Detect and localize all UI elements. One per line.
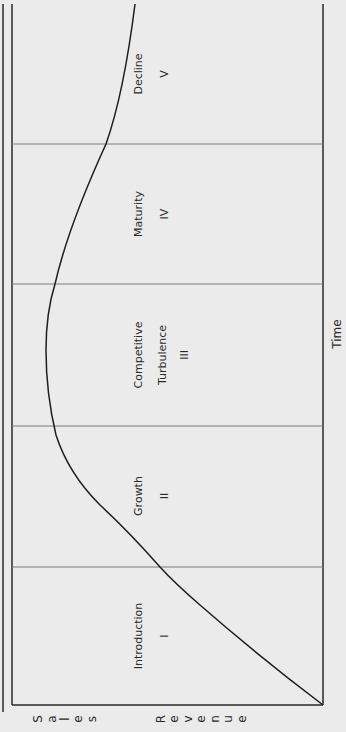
svg-text:Turbulence: Turbulence: [156, 325, 169, 386]
svg-text:s: s: [85, 716, 99, 722]
svg-text:e: e: [194, 715, 208, 722]
stage-label-maturity: Maturity IV: [132, 191, 171, 237]
y-axis-label: S a l e s R e v e n u e: [31, 715, 249, 723]
stage-label-introduction: Introduction I: [132, 603, 171, 670]
svg-text:Competitive: Competitive: [132, 321, 145, 388]
svg-text:e: e: [167, 715, 181, 722]
x-axis-label: Time: [330, 319, 344, 349]
svg-text:Time: Time: [330, 319, 344, 349]
svg-text:I: I: [158, 634, 171, 637]
svg-text:l: l: [58, 717, 72, 720]
svg-text:Maturity: Maturity: [132, 191, 145, 237]
svg-text:III: III: [178, 350, 191, 360]
svg-text:e: e: [235, 715, 249, 722]
svg-text:V: V: [158, 70, 171, 78]
stage-label-growth: Growth II: [132, 476, 171, 516]
stage-label-competitive-turbulence: Competitive Turbulence III: [132, 321, 191, 388]
svg-text:Introduction: Introduction: [132, 603, 145, 670]
svg-text:R: R: [154, 715, 168, 723]
svg-text:Decline: Decline: [132, 53, 145, 94]
svg-text:v: v: [181, 715, 195, 722]
svg-text:u: u: [221, 715, 235, 723]
svg-text:II: II: [158, 493, 171, 500]
svg-text:IV: IV: [158, 208, 171, 219]
svg-text:a: a: [45, 715, 59, 722]
svg-text:n: n: [208, 715, 222, 723]
svg-text:S: S: [31, 715, 45, 723]
svg-text:e: e: [71, 715, 85, 722]
svg-text:Growth: Growth: [132, 476, 145, 516]
product-life-cycle-chart: Introduction I Growth II Competitive Tur…: [0, 0, 346, 732]
stage-label-decline: Decline V: [132, 53, 171, 94]
